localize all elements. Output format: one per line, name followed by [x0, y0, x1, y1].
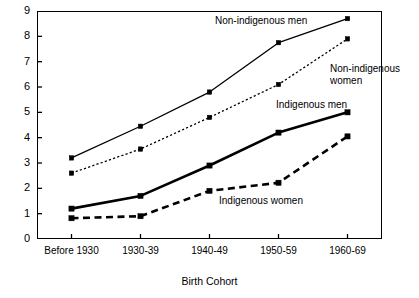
- y-tick-label-6: 6: [14, 81, 30, 92]
- series-annotation-2: Indigenous men: [276, 99, 347, 111]
- series-annotation-0: Non-indigenous men: [215, 15, 307, 27]
- chart-container: 0123456789 Before 19301930-391940-491950…: [0, 0, 419, 298]
- x-tick-label-4: 1960-69: [303, 245, 393, 256]
- y-tick-label-4: 4: [14, 132, 30, 143]
- y-tick-label-2: 2: [14, 182, 30, 193]
- x-axis-title: Birth Cohort: [0, 275, 419, 287]
- y-tick-label-1: 1: [14, 208, 30, 219]
- plot-area-frame: [37, 11, 382, 239]
- y-tick-label-0: 0: [14, 233, 30, 244]
- y-tick-label-7: 7: [14, 56, 30, 67]
- y-tick-label-3: 3: [14, 157, 30, 168]
- series-annotation-1: Non-indigenous women: [330, 63, 400, 86]
- y-tick-label-5: 5: [14, 106, 30, 117]
- y-tick-label-8: 8: [14, 30, 30, 41]
- series-annotation-3: Indigenous women: [219, 195, 303, 207]
- y-tick-label-9: 9: [14, 5, 30, 16]
